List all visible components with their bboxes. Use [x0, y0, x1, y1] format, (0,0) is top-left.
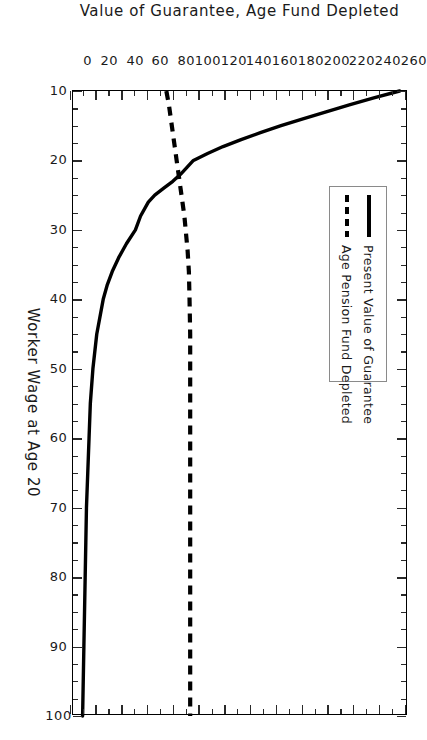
y-axis-minor-tick-right [83, 709, 84, 714]
x-axis-minor-tick [73, 247, 78, 248]
y-axis-minor-tick [186, 91, 187, 96]
x-axis-tick-label: 20 [50, 152, 68, 167]
y-axis-major-tick [224, 91, 225, 100]
y-axis-minor-tick-right [366, 709, 367, 714]
x-axis-minor-tick-top [401, 282, 406, 283]
x-axis-minor-tick [73, 421, 78, 422]
x-axis-major-tick-top [397, 160, 406, 161]
y-axis-minor-tick [263, 91, 264, 96]
x-axis-minor-tick-top [401, 334, 406, 335]
legend-entry-0: Present Value of Guarantee [358, 195, 380, 373]
dashed-line-swatch [341, 195, 353, 237]
y-axis-minor-tick [340, 91, 341, 96]
series-canvas [71, 91, 406, 716]
x-axis-minor-tick [73, 456, 78, 457]
x-axis-minor-tick-top [401, 681, 406, 682]
x-axis-major-tick [73, 91, 82, 92]
y-axis-major-tick-right [379, 705, 380, 714]
x-axis-minor-tick-top [401, 629, 406, 630]
y-axis-major-tick-right [250, 705, 251, 714]
x-axis-minor-tick-top [401, 386, 406, 387]
y-axis-major-tick-right [405, 705, 406, 714]
y-axis-minor-tick-right [186, 709, 187, 714]
x-axis-minor-tick-top [401, 195, 406, 196]
x-axis-tick-label: 70 [50, 499, 68, 514]
x-axis-tick-label: 50 [50, 360, 68, 375]
x-axis-major-tick-top [397, 577, 406, 578]
y-axis-minor-tick-right [134, 709, 135, 714]
y-axis-major-tick-right [121, 705, 122, 714]
x-axis-minor-tick [73, 681, 78, 682]
x-axis-minor-tick [73, 143, 78, 144]
x-axis-major-tick-top [397, 230, 406, 231]
y-axis-major-tick [302, 91, 303, 100]
x-axis-tick-label: 100 [45, 708, 71, 723]
y-axis-major-tick-right [224, 705, 225, 714]
y-axis-major-tick [121, 91, 122, 100]
y-axis-major-tick [250, 91, 251, 100]
y-axis-minor-tick [315, 91, 316, 96]
y-axis-minor-tick [392, 91, 393, 96]
x-axis-minor-tick-top [401, 490, 406, 491]
y-axis-minor-tick [160, 91, 161, 96]
x-axis-minor-tick-top [401, 699, 406, 700]
x-axis-minor-tick-top [401, 664, 406, 665]
y-axis-minor-tick-right [108, 709, 109, 714]
x-axis-tick-label: 80 [50, 569, 68, 584]
x-axis-minor-tick [73, 195, 78, 196]
y-axis-major-tick [379, 91, 380, 100]
x-axis-minor-tick [73, 386, 78, 387]
x-axis-major-tick [73, 508, 82, 509]
x-axis-minor-tick-top [401, 525, 406, 526]
x-axis-minor-tick-top [401, 317, 406, 318]
x-axis-major-tick-top [397, 369, 406, 370]
x-axis-minor-tick [73, 612, 78, 613]
y-axis-major-tick-right [302, 705, 303, 714]
x-axis-tick-label: 90 [50, 638, 68, 653]
x-axis-minor-tick-top [401, 265, 406, 266]
y-axis-major-tick [95, 91, 96, 100]
x-axis-major-tick [73, 647, 82, 648]
x-axis-minor-tick [73, 560, 78, 561]
x-axis-minor-tick-top [401, 542, 406, 543]
y-axis-minor-tick [366, 91, 367, 96]
x-axis-major-tick-top [397, 438, 406, 439]
solid-line-swatch [363, 195, 375, 237]
y-axis-title: Value of Guarantee, Age Fund Depleted [72, 0, 407, 22]
x-axis-major-tick-top [397, 508, 406, 509]
x-axis-minor-tick [73, 178, 78, 179]
y-axis-minor-tick-right [212, 709, 213, 714]
x-axis-minor-tick-top [401, 108, 406, 109]
y-axis-major-tick [147, 91, 148, 100]
x-axis-major-tick-top [397, 299, 406, 300]
x-axis-minor-tick [73, 629, 78, 630]
y-axis-major-tick-right [147, 705, 148, 714]
x-axis-minor-tick [73, 317, 78, 318]
x-axis-minor-tick [73, 334, 78, 335]
x-axis-minor-tick [73, 542, 78, 543]
y-axis-minor-tick-right [392, 709, 393, 714]
y-axis-major-tick-right [276, 705, 277, 714]
y-axis-major-tick-right [95, 705, 96, 714]
x-axis-minor-tick [73, 594, 78, 595]
x-axis-minor-tick-top [401, 594, 406, 595]
x-axis-tick-label: 40 [50, 291, 68, 306]
x-axis-minor-tick [73, 126, 78, 127]
y-axis-major-tick-right [327, 705, 328, 714]
x-axis-major-tick [73, 299, 82, 300]
x-axis-minor-tick-top [401, 560, 406, 561]
y-axis-minor-tick [83, 91, 84, 96]
x-axis-major-tick [73, 369, 82, 370]
x-axis-minor-tick [73, 108, 78, 109]
x-axis-minor-tick [73, 265, 78, 266]
y-axis-major-tick [353, 91, 354, 100]
x-axis-minor-tick [73, 404, 78, 405]
x-axis-tick-label: 60 [50, 430, 68, 445]
y-axis-major-tick [276, 91, 277, 100]
x-axis-minor-tick [73, 282, 78, 283]
x-axis-minor-tick-top [401, 178, 406, 179]
y-axis-minor-tick [212, 91, 213, 96]
y-axis-minor-tick [134, 91, 135, 96]
legend-entry-1-label: Age Pension Fund Depleted [340, 245, 355, 424]
